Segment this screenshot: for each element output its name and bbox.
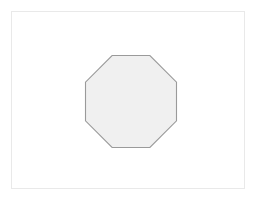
shape-canvas-svg <box>0 0 258 203</box>
app-root <box>0 0 258 203</box>
octagon-shape[interactable] <box>86 56 177 148</box>
shape-layer <box>0 0 258 203</box>
